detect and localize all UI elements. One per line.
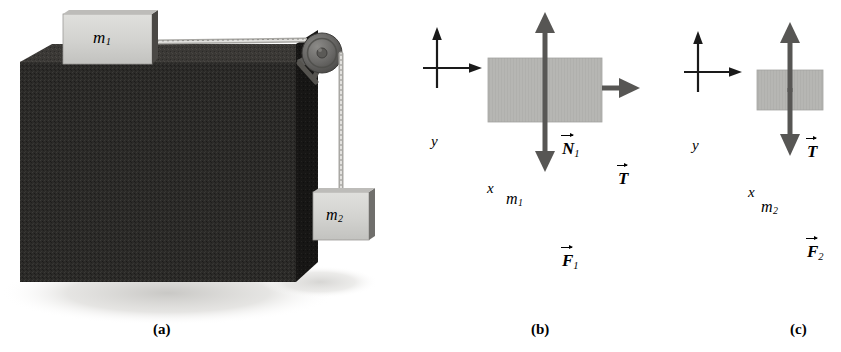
panel-c-drawing [650, 0, 841, 352]
panel-b-arrow-tension-force [602, 78, 640, 98]
panel-b-label-tension-force: T [618, 170, 628, 189]
panel-a-drawing [0, 0, 420, 352]
panel-b-axis-y-label: y [431, 133, 438, 150]
panel-b-label-weight-force: F1 [562, 252, 579, 271]
physics-figure: m1 m2 (a) [0, 0, 841, 352]
panel-b-axis-x-label: x [487, 180, 494, 197]
panel-c-caption: (c) [790, 321, 807, 338]
panel-a-label-m1: m1 [93, 29, 111, 48]
panel-b-caption: (b) [531, 321, 549, 338]
block-m2 [313, 188, 375, 240]
panel-b-free-body-m1: x y m1 N1 T F1 (b) [420, 0, 650, 352]
panel-b-label-m1: m1 [506, 191, 523, 208]
panel-c-label-m2: m2 [761, 199, 778, 216]
panel-c-free-body-m2: x y m2 T F2 (c) [650, 0, 841, 352]
panel-c-axes [684, 31, 742, 92]
panel-a-pictorial: m1 m2 (a) [0, 0, 420, 352]
pulley [302, 33, 342, 73]
rope-horizontal [152, 39, 305, 42]
panel-c-axis-x-label: x [748, 184, 755, 201]
panel-c-label-weight-force: F2 [807, 243, 824, 262]
table-front-face [20, 62, 296, 282]
panel-b-drawing [420, 0, 650, 352]
panel-c-label-tension-force: T [807, 143, 817, 162]
panel-b-axes [423, 27, 482, 88]
panel-a-label-m2: m2 [326, 207, 343, 224]
panel-b-label-normal-force: N1 [562, 140, 580, 159]
panel-a-caption: (a) [153, 321, 171, 338]
panel-c-axis-y-label: y [692, 137, 699, 154]
